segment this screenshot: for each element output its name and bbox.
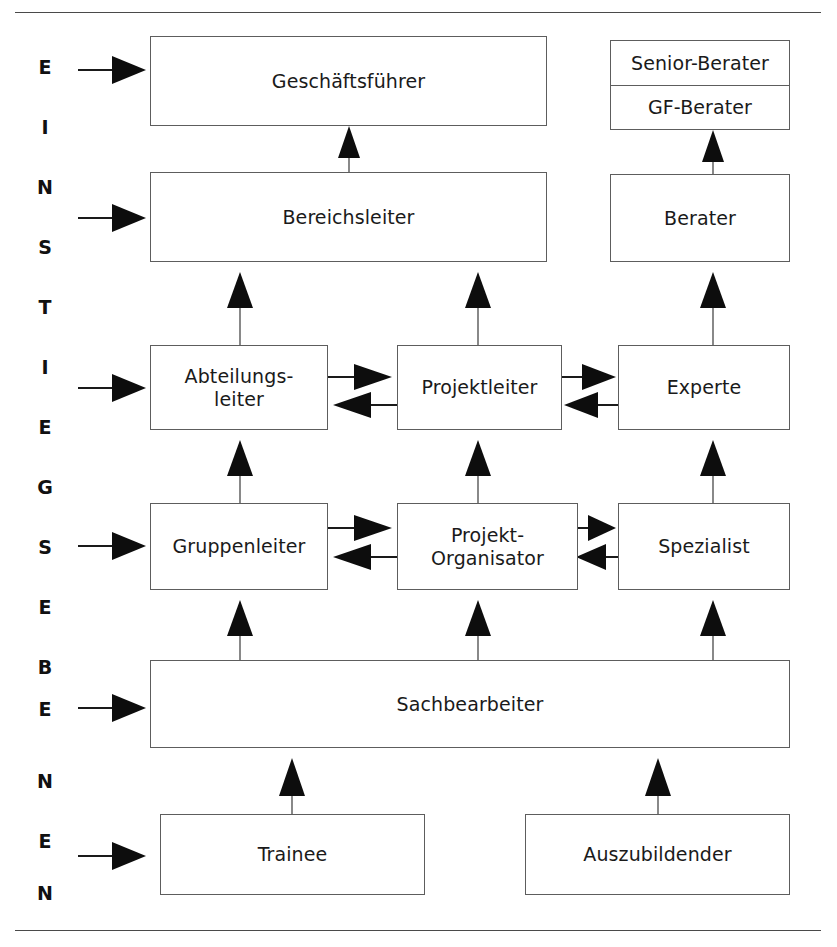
- promotion-arrow-spezialist-to-experte: [700, 440, 726, 503]
- node-label-gruppenleiter: Gruppenleiter: [173, 535, 306, 557]
- promotion-arrow-berater-to-gf-berater: [702, 130, 724, 174]
- promotion-arrow-sachbearbeiter-to-projekt-organisator: [465, 600, 491, 660]
- lateral-arrow-spezialist-to-projekt-organisator: [576, 544, 618, 570]
- node-berater[interactable]: Berater: [610, 174, 790, 262]
- node-projekt-organisator[interactable]: Projekt- Organisator: [397, 503, 578, 590]
- node-label-spezialist: Spezialist: [658, 535, 750, 557]
- promotion-arrow-gruppenleiter-to-abteilungsleiter: [227, 440, 253, 503]
- node-bereichsleiter[interactable]: Bereichsleiter: [150, 172, 547, 262]
- entry-arrow-abteilungsleiter: [78, 374, 146, 402]
- node-label-bereichsleiter: Bereichsleiter: [282, 206, 414, 228]
- node-label-geschaeftsfuehrer: Geschäftsführer: [272, 70, 425, 92]
- promotion-arrow-sachbearbeiter-to-spezialist: [700, 600, 726, 660]
- node-sachbearbeiter[interactable]: Sachbearbeiter: [150, 660, 790, 748]
- lateral-arrow-abteilungsleiter-to-projektleiter: [328, 364, 392, 390]
- promotion-arrow-trainee-to-sachbearbeiter: [279, 758, 305, 814]
- node-label-projektleiter: Projektleiter: [421, 376, 537, 398]
- node-label-auszubildender: Auszubildender: [583, 843, 731, 865]
- node-label-experte: Experte: [667, 376, 742, 398]
- promotion-arrow-projektleiter-to-bereichsleiter: [465, 272, 491, 345]
- entry-arrow-bereichsleiter: [78, 204, 146, 232]
- lateral-arrow-projektleiter-to-experte: [562, 364, 616, 390]
- node-label-gf-berater: GF-Berater: [648, 96, 752, 118]
- lateral-arrow-gruppenleiter-to-projekt-organisator: [328, 515, 392, 541]
- entry-arrow-sachbearbeiter: [78, 694, 146, 722]
- node-experte[interactable]: Experte: [618, 345, 790, 430]
- promotion-arrow-abteilungsleiter-to-bereichsleiter: [227, 272, 253, 345]
- promotion-arrow-projekt-organisator-to-projektleiter: [465, 440, 491, 503]
- node-label-abteilungsleiter-line2: leiter: [214, 388, 264, 410]
- node-label-sachbearbeiter: Sachbearbeiter: [397, 693, 544, 715]
- node-senior-berater[interactable]: Senior-Berater: [611, 41, 789, 86]
- lateral-arrow-projekt-organisator-to-gruppenleiter: [333, 544, 397, 570]
- promotion-arrow-auszubildender-to-sachbearbeiter: [645, 758, 671, 814]
- promotion-arrow-bereichsleiter-to-geschaeftsfuehrer: [338, 126, 360, 172]
- lateral-arrow-experte-to-projektleiter: [564, 392, 618, 418]
- node-gf-berater[interactable]: GF-Berater: [611, 86, 789, 130]
- node-auszubildender[interactable]: Auszubildender: [525, 814, 790, 895]
- lateral-arrow-projektleiter-to-abteilungsleiter: [333, 392, 397, 418]
- entry-arrow-trainee: [78, 842, 146, 870]
- node-spezialist[interactable]: Spezialist: [618, 503, 790, 590]
- node-berater-stack[interactable]: Senior-Berater GF-Berater: [610, 40, 790, 130]
- entry-arrow-gruppenleiter: [78, 532, 146, 560]
- promotion-arrow-sachbearbeiter-to-gruppenleiter: [227, 600, 253, 660]
- node-label-projekt-organisator: Projekt- Organisator: [431, 524, 544, 568]
- node-label-abteilungsleiter: Abteilungs- leiter: [185, 365, 294, 409]
- entry-arrow-geschaeftsfuehrer: [78, 56, 146, 84]
- connector-layer: [0, 0, 837, 947]
- promotion-arrow-experte-to-berater: [700, 272, 726, 345]
- node-trainee[interactable]: Trainee: [160, 814, 425, 895]
- lateral-arrow-projekt-organisator-to-spezialist: [578, 515, 616, 541]
- org-chart-diagram: E I N S T I E G S E B E N E N: [0, 0, 837, 947]
- node-label-projekt-organisator-line1: Projekt-: [451, 524, 524, 546]
- node-label-projekt-organisator-line2: Organisator: [431, 547, 544, 569]
- node-abteilungsleiter[interactable]: Abteilungs- leiter: [150, 345, 328, 430]
- node-gruppenleiter[interactable]: Gruppenleiter: [150, 503, 328, 590]
- node-label-trainee: Trainee: [258, 843, 328, 865]
- node-label-senior-berater: Senior-Berater: [631, 52, 769, 74]
- node-label-berater: Berater: [664, 207, 736, 229]
- node-geschaeftsfuehrer[interactable]: Geschäftsführer: [150, 36, 547, 126]
- node-label-abteilungsleiter-line1: Abteilungs-: [185, 365, 294, 387]
- node-projektleiter[interactable]: Projektleiter: [397, 345, 562, 430]
